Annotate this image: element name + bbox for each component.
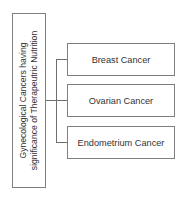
- root-node-box: Gynecological Cancers having significanc…: [12, 13, 46, 188]
- connector-to-endometrium: [56, 142, 67, 143]
- connector-to-breast: [56, 59, 67, 60]
- root-label-line-2: significance of Therapeutric Nutrition: [29, 31, 40, 170]
- root-label-line-1: Gynecological Cancers having: [19, 42, 30, 158]
- child-label: Endometrium Cancer: [78, 138, 165, 148]
- child-node-endometrium-cancer: Endometrium Cancer: [67, 126, 175, 159]
- child-label: Ovarian Cancer: [89, 96, 153, 106]
- child-node-ovarian-cancer: Ovarian Cancer: [67, 84, 175, 117]
- child-label: Breast Cancer: [92, 55, 151, 65]
- root-node-label: Gynecological Cancers having significanc…: [19, 31, 40, 170]
- child-node-breast-cancer: Breast Cancer: [67, 43, 175, 76]
- connector-bracket-vertical: [56, 59, 57, 143]
- connector-to-ovarian: [56, 100, 67, 101]
